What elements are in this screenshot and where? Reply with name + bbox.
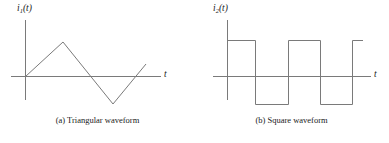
waveform-figure-board: i1(t) t (a) Triangular waveform i2(t) t: [0, 0, 389, 143]
square-waveform-trace: [228, 41, 364, 105]
figure-caption-a: (a) Triangular waveform: [0, 115, 195, 125]
y-axis-subscript: 1: [20, 7, 23, 14]
y-axis-label-i2: i2(t): [213, 4, 228, 14]
figure-panel-square: i2(t) t (b) Square waveform: [194, 0, 389, 143]
y-axis-label-i1: i1(t): [17, 4, 32, 14]
y-axis-suffix: (t): [23, 3, 32, 13]
square-waveform-plot: [194, 0, 389, 115]
x-axis-label-t: t: [164, 70, 167, 80]
figure-panel-triangular: i1(t) t (a) Triangular waveform: [0, 0, 195, 143]
triangular-waveform-plot: [0, 0, 195, 115]
triangular-waveform-trace: [26, 42, 147, 104]
y-axis-suffix: (t): [219, 3, 228, 13]
figure-caption-b: (b) Square waveform: [194, 115, 389, 125]
x-axis-label-t: t: [374, 70, 377, 80]
y-axis-subscript: 2: [216, 7, 219, 14]
